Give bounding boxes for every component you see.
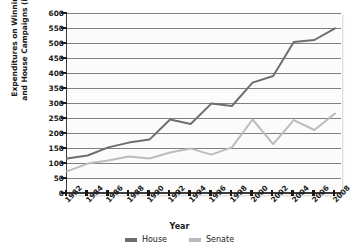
y-tick-label: 250 — [40, 114, 64, 123]
chart-legend: HouseSenate — [0, 235, 359, 244]
y-tick-label: 200 — [40, 129, 64, 138]
x-axis-title: Year — [0, 222, 359, 231]
y-tick-label: 550 — [40, 24, 64, 33]
series-lines — [67, 13, 341, 193]
y-tick-label: 100 — [40, 159, 64, 168]
legend-label: House — [142, 235, 167, 244]
y-tick-label: 350 — [40, 84, 64, 93]
legend-swatch-icon — [125, 238, 137, 242]
series-line-senate — [67, 114, 335, 172]
line-chart: Expenditures on Winning Senate and House… — [0, 0, 359, 249]
y-tick-label: 450 — [40, 54, 64, 63]
legend-swatch-icon — [189, 238, 201, 242]
y-tick-label: 300 — [40, 99, 64, 108]
y-tick-label: 150 — [40, 144, 64, 153]
y-tick-label: 400 — [40, 69, 64, 78]
legend-item-senate[interactable]: Senate — [189, 235, 234, 244]
y-tick-label: 500 — [40, 39, 64, 48]
y-tick-label: 0 — [40, 189, 64, 198]
y-tick-label: 600 — [40, 9, 64, 18]
series-line-house — [67, 28, 335, 158]
plot-area — [66, 13, 341, 193]
y-tick-label: 50 — [40, 174, 64, 183]
legend-label: Senate — [206, 235, 234, 244]
legend-item-house[interactable]: House — [125, 235, 167, 244]
y-axis-title: Expenditures on Winning Senate and House… — [10, 0, 30, 118]
